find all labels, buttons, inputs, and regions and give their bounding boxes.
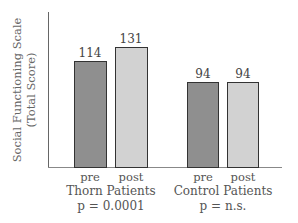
thorn-p-value: p = 0.0001	[51, 199, 171, 213]
bar-chart: Social Functioning Scale (Total Score) 1…	[0, 0, 298, 223]
control-p-value: p = n.s.	[163, 199, 283, 213]
y-axis-line	[48, 12, 49, 168]
thorn-group-label: Thorn Patients	[51, 184, 171, 198]
thorn-pre-value-label: 114	[70, 46, 110, 60]
thorn-post-bar	[115, 47, 148, 168]
control-post-tick-label: post	[223, 170, 263, 184]
control-pre-value-label: 94	[183, 67, 223, 81]
thorn-post-value-label: 131	[111, 32, 151, 46]
thorn-pre-bar	[74, 61, 107, 168]
control-pre-tick-label: pre	[183, 170, 223, 184]
control-group-label: Control Patients	[163, 184, 283, 198]
control-pre-bar	[187, 82, 219, 168]
thorn-pre-tick-label: pre	[70, 170, 110, 184]
y-axis-label-line2: (Total Score)	[24, 18, 38, 163]
control-post-value-label: 94	[223, 67, 263, 81]
thorn-post-tick-label: post	[111, 170, 151, 184]
control-post-bar	[227, 82, 259, 168]
y-axis-label-line1: Social Functioning Scale	[10, 18, 24, 163]
